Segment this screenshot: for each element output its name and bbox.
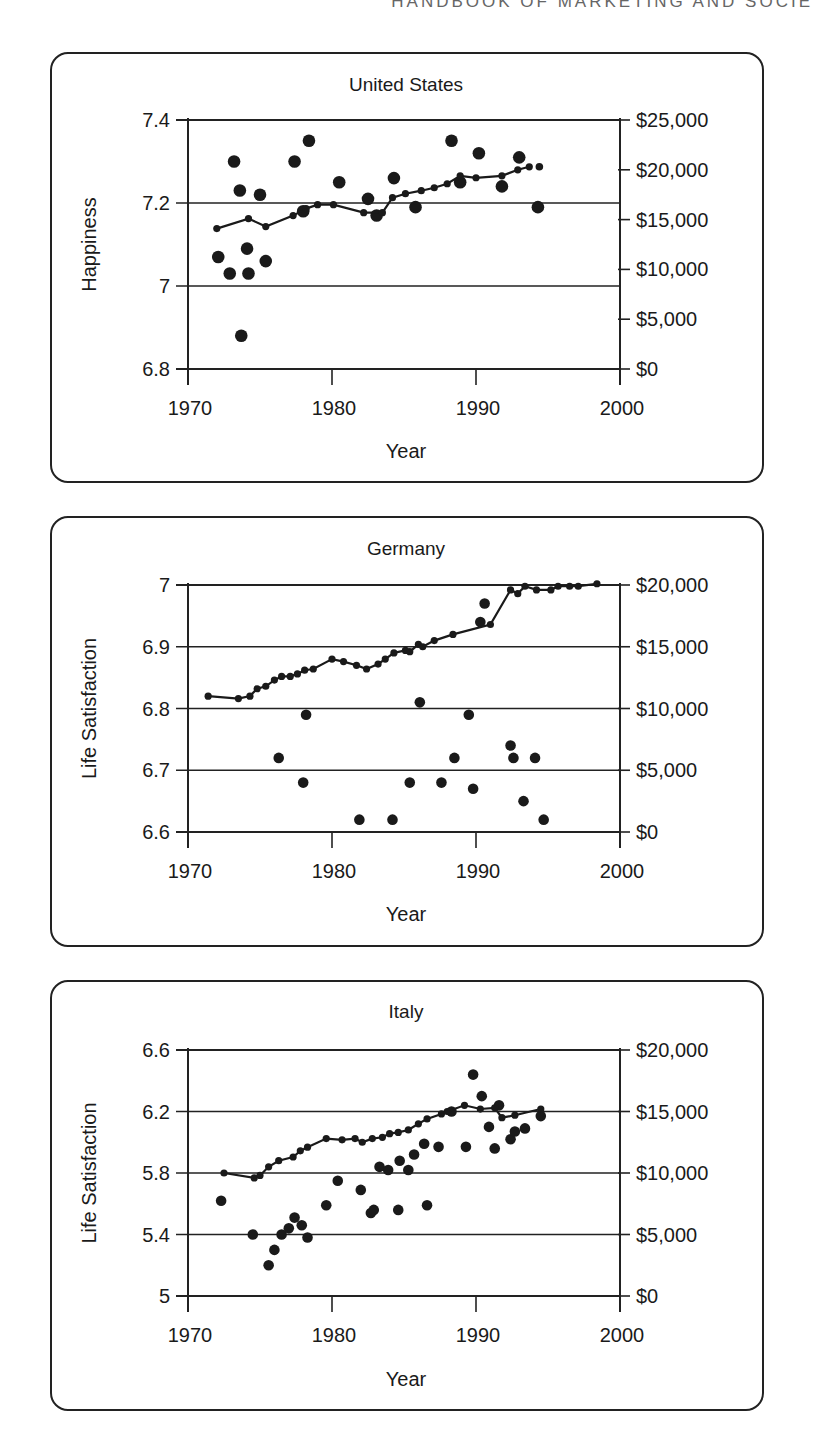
- gnp-point: [554, 583, 561, 590]
- y-tick-label: 6.8: [142, 358, 170, 380]
- gnp-point: [340, 658, 347, 665]
- y2-tick-label: $0: [636, 821, 658, 843]
- x-tick-label: 1970: [168, 860, 213, 882]
- gnp-point: [537, 1105, 544, 1112]
- survey-point: [520, 1123, 531, 1134]
- gnp-point: [265, 1163, 272, 1170]
- survey-point: [489, 1143, 500, 1154]
- gnp-point: [213, 225, 220, 232]
- y-axis-label: Life Satisfaction: [78, 638, 100, 779]
- survey-point: [284, 1223, 295, 1234]
- survey-point: [301, 709, 312, 720]
- y2-tick-label: $25,000: [636, 109, 708, 131]
- gnp-point: [359, 1139, 366, 1146]
- survey-point: [409, 201, 422, 214]
- survey-point: [484, 1122, 495, 1133]
- gnp-point: [444, 180, 451, 187]
- survey-point: [254, 188, 267, 201]
- survey-point: [354, 814, 365, 825]
- survey-point: [356, 1185, 367, 1196]
- gnp-point: [363, 665, 370, 672]
- gnp-point: [314, 201, 321, 208]
- gnp-point: [390, 649, 397, 656]
- survey-point: [436, 777, 447, 788]
- survey-point: [241, 242, 254, 255]
- gnp-point: [287, 673, 294, 680]
- survey-point: [532, 201, 545, 214]
- series-happiness-survey: [212, 134, 544, 342]
- x-tick-label: 1990: [456, 860, 501, 882]
- gnp-point: [487, 621, 494, 628]
- series-life-satisfaction-survey: [273, 598, 549, 825]
- series-gnp-per-capita: [205, 580, 601, 702]
- gnp-point: [205, 693, 212, 700]
- gnp-point: [575, 583, 582, 590]
- gnp-point: [418, 187, 425, 194]
- y-tick-label: 7.2: [142, 192, 170, 214]
- gnp-point: [431, 637, 438, 644]
- y2-tick-label: $5,000: [636, 759, 697, 781]
- survey-point: [422, 1200, 433, 1211]
- y2-tick-label: $15,000: [636, 636, 708, 658]
- y-tick-label: 6.6: [142, 821, 170, 843]
- gnp-point: [374, 660, 381, 667]
- survey-point: [419, 1138, 430, 1149]
- x-axis-label: Year: [386, 903, 427, 925]
- gnp-point: [521, 583, 528, 590]
- survey-point: [388, 172, 401, 185]
- survey-point: [513, 151, 526, 164]
- survey-point: [242, 267, 255, 280]
- y-axis-label: Happiness: [78, 197, 100, 292]
- gnp-point: [593, 580, 600, 587]
- gnp-point: [294, 670, 301, 677]
- survey-point: [461, 1142, 472, 1153]
- y-tick-label: 6.6: [142, 1039, 170, 1061]
- gnp-point: [461, 1102, 468, 1109]
- gnp-point: [498, 172, 505, 179]
- x-tick-label: 1970: [168, 397, 213, 419]
- survey-point: [479, 598, 490, 609]
- survey-point: [303, 134, 316, 147]
- gnp-point: [444, 1108, 451, 1115]
- gnp-point: [235, 695, 242, 702]
- x-tick-label: 1990: [456, 1324, 501, 1346]
- gnp-point: [245, 215, 252, 222]
- y-tick-label: 5.4: [142, 1224, 170, 1246]
- gnp-point: [328, 656, 335, 663]
- gnp-point: [256, 1172, 263, 1179]
- y2-tick-label: $10,000: [636, 698, 708, 720]
- gnp-point: [369, 1135, 376, 1142]
- survey-point: [476, 1091, 487, 1102]
- y2-tick-label: $0: [636, 358, 658, 380]
- x-axis-label: Year: [386, 440, 427, 462]
- y-tick-label: 7.4: [142, 109, 170, 131]
- chart-italy: Italy55.45.86.26.6$0$5,000$10,000$15,000…: [78, 1001, 708, 1390]
- gnp-point: [491, 1104, 498, 1111]
- y2-tick-label: $5,000: [636, 308, 697, 330]
- survey-point: [298, 777, 309, 788]
- y-tick-label: 6.7: [142, 759, 170, 781]
- survey-point: [228, 155, 241, 168]
- gnp-point: [395, 1129, 402, 1136]
- y2-tick-label: $0: [636, 1285, 658, 1307]
- survey-point: [302, 1232, 313, 1243]
- gnp-point: [405, 1126, 412, 1133]
- survey-point: [464, 709, 475, 720]
- survey-point: [530, 753, 541, 764]
- gnp-point: [457, 172, 464, 179]
- x-tick-label: 1980: [312, 397, 357, 419]
- y2-tick-label: $20,000: [636, 159, 708, 181]
- gnp-point: [423, 1115, 430, 1122]
- gnp-point: [419, 643, 426, 650]
- gnp-point: [302, 205, 309, 212]
- series-gnp-per-capita-unconnected-point: [536, 163, 544, 171]
- chart-title: Germany: [367, 538, 446, 559]
- y2-tick-label: $10,000: [636, 1162, 708, 1184]
- survey-point: [536, 163, 544, 171]
- survey-point: [510, 1126, 521, 1137]
- gnp-point: [477, 1105, 484, 1112]
- survey-point: [383, 1165, 394, 1176]
- gnp-point: [386, 1130, 393, 1137]
- gnp-point: [290, 212, 297, 219]
- y-tick-label: 6.8: [142, 698, 170, 720]
